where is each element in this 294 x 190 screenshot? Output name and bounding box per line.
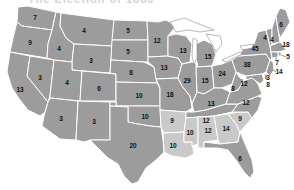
state-ct [271,52,278,58]
state-label-ks: 10 [135,93,142,100]
state-label-ms: 10 [186,130,193,137]
lake-superior [170,18,214,32]
state-label-ok: 10 [141,114,148,121]
state-label-az: 3 [59,116,63,123]
state-label-ia: 13 [160,65,167,72]
state-label-wv: 8 [231,86,235,93]
state-label-sc: 9 [238,116,242,123]
state-label-mo: 18 [166,92,173,99]
state-label-ga: 14 [222,126,229,133]
state-label-nj: 14 [275,69,282,76]
state-label-mt: 4 [82,28,86,35]
state-label-ky: 13 [207,101,214,108]
state-label-ny: 45 [251,46,258,53]
state-label-pa: 38 [243,62,250,69]
lake-michigan [192,38,197,64]
state-label-ri: 5 [286,54,290,61]
state-label-co: 6 [97,86,101,93]
state-pa [232,54,270,76]
state-label-mi: 15 [204,54,211,61]
state-label-tx: 20 [129,143,136,150]
state-label-vt: 4 [263,35,267,42]
state-label-mn: 12 [153,38,160,45]
state-label-me: 6 [279,22,283,29]
state-label-id: 4 [57,46,61,53]
state-label-wa: 7 [33,15,37,22]
state-label-il: 29 [183,78,190,85]
state-label-in: 15 [201,78,208,85]
state-label-wy: 3 [89,58,93,65]
state-label-nc: 12 [242,100,249,107]
state-label-nh: 4 [270,37,274,44]
state-label-nm: 3 [92,119,96,126]
state-label-ut: 4 [65,80,69,87]
state-label-tn: 12 [202,118,209,125]
state-label-wi: 13 [179,48,186,55]
state-label-md: 8 [266,82,270,89]
state-label-ca: 13 [16,87,23,94]
state-label-ne: 8 [129,70,133,77]
state-label-ct: 7 [275,60,279,67]
state-label-or: 9 [28,40,32,47]
state-label-la: 10 [169,143,176,150]
state-label-fl: 6 [238,156,242,163]
state-label-al: 12 [204,128,211,135]
state-label-sd: 5 [126,49,130,56]
state-label-ar: 9 [170,118,174,125]
us-map [0,0,294,190]
state-label-nv: 3 [38,75,42,82]
state-label-nd: 5 [126,28,130,35]
state-label-oh: 24 [218,71,225,78]
state-label-va: 12 [240,81,247,88]
state-label-ma: 18 [282,42,289,49]
